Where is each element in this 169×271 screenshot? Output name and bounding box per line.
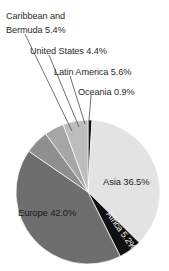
label-asia: Asia 36.5%	[103, 176, 149, 187]
label-europe: Europe 42.0%	[18, 207, 76, 218]
pie-chart: Caribbean and Bermuda 5.4% United States…	[0, 0, 169, 271]
label-caribbean-line1: Caribbean and	[6, 11, 65, 21]
pie-chart-svg: Caribbean and Bermuda 5.4% United States…	[0, 0, 169, 271]
label-oceania: Oceania 0.9%	[78, 87, 135, 97]
label-united-states: United States 4.4%	[30, 46, 107, 56]
leader-line-oceania	[89, 95, 91, 121]
label-caribbean-line2: Bermuda 5.4%	[6, 25, 66, 35]
label-latin-america: Latin America 5.6%	[54, 67, 131, 77]
pie-slices-group	[16, 120, 160, 264]
leader-line-latin-america	[70, 76, 85, 124]
